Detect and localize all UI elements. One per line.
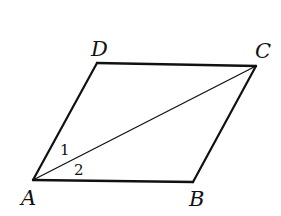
- side-BC: [193, 66, 256, 182]
- vertex-label-A: A: [19, 186, 36, 210]
- side-CD: [97, 63, 256, 66]
- side-DA: [33, 63, 97, 180]
- side-AB: [33, 180, 193, 182]
- angle-label-2: 2: [74, 161, 84, 179]
- angle-label-1: 1: [60, 141, 70, 159]
- diagonal-AC: [33, 66, 256, 180]
- vertex-label-B: B: [188, 187, 204, 211]
- vertex-label-C: C: [255, 39, 271, 63]
- parallelogram-diagram: D C A B 1 2: [0, 0, 281, 216]
- parallelogram-sides: [33, 63, 256, 182]
- vertex-label-D: D: [90, 37, 108, 61]
